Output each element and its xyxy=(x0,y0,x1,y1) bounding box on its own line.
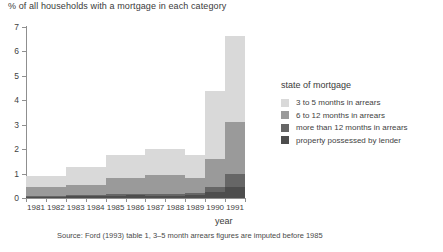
area-segment xyxy=(126,195,146,198)
stacked-column xyxy=(205,27,225,198)
x-axis-tick xyxy=(165,198,166,202)
x-axis-tick-label: 1982 xyxy=(47,203,65,212)
legend-swatch-icon xyxy=(281,99,289,107)
legend-item-label: property possessed by lender xyxy=(296,136,401,145)
area-segment xyxy=(225,174,245,187)
area-segment xyxy=(145,175,165,194)
area-segment xyxy=(225,122,245,173)
x-axis-tick xyxy=(86,198,87,202)
x-axis-tick xyxy=(145,198,146,202)
y-axis-label-wrap: 7 xyxy=(6,27,19,37)
area-segment xyxy=(205,192,225,198)
area-segment xyxy=(145,196,165,198)
y-axis-tick-label: 1 xyxy=(6,169,19,179)
stacked-column xyxy=(185,27,205,198)
source-note: Source: Ford (1993) table 1, 3–5 month a… xyxy=(57,231,323,240)
area-segment xyxy=(165,194,185,195)
area-segment xyxy=(185,193,205,195)
y-axis-label-wrap: 5 xyxy=(6,76,19,86)
y-axis-label-wrap: 3 xyxy=(6,125,19,135)
area-segment xyxy=(66,185,86,195)
chart-container: % of all households with a mortgage in e… xyxy=(0,0,443,252)
legend-swatch-icon xyxy=(281,136,289,144)
area-segment xyxy=(145,149,165,175)
area-segment xyxy=(205,91,225,159)
legend-entries: 3 to 5 months in arrears6 to 12 months i… xyxy=(281,98,441,145)
area-segment xyxy=(106,178,126,194)
chart-title: % of all households with a mortgage in e… xyxy=(8,1,226,11)
x-axis-title: year xyxy=(215,216,233,226)
area-segment xyxy=(205,159,225,188)
y-axis-label-wrap: 0 xyxy=(6,198,19,208)
area-segment xyxy=(46,176,66,187)
legend-item-label: more than 12 months in arrears xyxy=(296,123,408,132)
x-axis-tick-label: 1985 xyxy=(107,203,125,212)
y-axis-label-wrap: 4 xyxy=(6,100,19,110)
area-segment xyxy=(205,187,225,191)
area-segment xyxy=(185,178,205,193)
area-segment xyxy=(145,194,165,195)
area-segment xyxy=(126,155,146,178)
stacked-column xyxy=(165,27,185,198)
legend: state of mortgage 3 to 5 months in arrea… xyxy=(281,80,441,148)
y-axis-label-wrap: 1 xyxy=(6,174,19,184)
x-axis-tick-label: 1981 xyxy=(27,203,45,212)
legend-item-label: 3 to 5 months in arrears xyxy=(296,98,380,107)
x-axis-tick-label: 1987 xyxy=(147,203,165,212)
area-segment xyxy=(46,196,66,197)
area-segment xyxy=(86,167,106,184)
area-segment xyxy=(165,175,185,194)
x-axis-tick-label: 1986 xyxy=(127,203,145,212)
area-segment xyxy=(225,187,245,198)
area-segment xyxy=(165,196,185,198)
y-axis-tick-label: 2 xyxy=(6,144,19,154)
x-axis-tick xyxy=(225,198,226,202)
x-axis-tick xyxy=(205,198,206,202)
x-axis-tick xyxy=(106,198,107,202)
area-segment xyxy=(165,149,185,175)
area-segment xyxy=(86,185,106,195)
stacked-column xyxy=(225,27,245,198)
area-segment xyxy=(185,155,205,178)
y-axis-tick-label: 7 xyxy=(6,22,19,32)
area-segment xyxy=(26,197,46,198)
stacked-column xyxy=(106,27,126,198)
stacked-column xyxy=(145,27,165,198)
area-segment xyxy=(66,195,86,196)
x-axis-tick-label: 1984 xyxy=(87,203,105,212)
y-axis-tick-label: 5 xyxy=(6,71,19,81)
area-segment xyxy=(66,167,86,184)
y-axis-label-wrap: 6 xyxy=(6,51,19,61)
area-segment xyxy=(26,187,46,196)
x-axis-tick-label: 1983 xyxy=(67,203,85,212)
area-segment xyxy=(106,155,126,178)
area-segment xyxy=(106,196,126,198)
legend-title: state of mortgage xyxy=(281,80,441,90)
stacked-column xyxy=(26,27,46,198)
area-segment xyxy=(126,194,146,195)
area-segment xyxy=(185,195,205,198)
x-axis-tick xyxy=(46,198,47,202)
area-segment xyxy=(46,187,66,196)
legend-item[interactable]: 3 to 5 months in arrears xyxy=(281,98,441,107)
legend-item[interactable]: property possessed by lender xyxy=(281,136,441,145)
x-axis-line xyxy=(26,198,246,199)
area-segment xyxy=(66,196,86,198)
stacked-column xyxy=(46,27,66,198)
legend-item[interactable]: more than 12 months in arrears xyxy=(281,123,441,132)
area-segment xyxy=(86,195,106,196)
legend-swatch-icon xyxy=(281,111,289,119)
x-axis-tick xyxy=(66,198,67,202)
x-axis-tick xyxy=(185,198,186,202)
area-segment xyxy=(26,176,46,187)
area-segment xyxy=(46,197,66,198)
area-segment xyxy=(86,196,106,198)
plot-area xyxy=(26,27,245,198)
stacked-column xyxy=(66,27,86,198)
legend-item[interactable]: 6 to 12 months in arrears xyxy=(281,111,441,120)
x-axis-tick-label: 1991 xyxy=(226,203,244,212)
x-axis-tick xyxy=(26,198,27,202)
area-segment xyxy=(225,36,245,123)
x-axis-tick xyxy=(245,198,246,202)
x-axis-tick-label: 1990 xyxy=(206,203,224,212)
